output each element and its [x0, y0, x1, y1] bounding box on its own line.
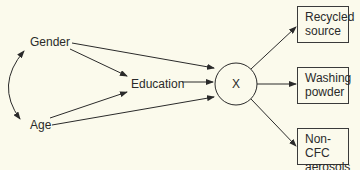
washing-line1: Washing — [305, 71, 348, 85]
edge-x-noncfc — [251, 99, 296, 146]
edge-age-x — [52, 97, 214, 125]
washing-line2: powder — [305, 85, 348, 99]
noncfc-aerosols-box: Non-CFC aerosols — [297, 128, 349, 165]
edge-gender-x — [72, 43, 214, 68]
education-node: Education — [131, 77, 184, 91]
recycled-line2: source — [305, 24, 348, 38]
age-node: Age — [30, 118, 51, 132]
edge-gender-age — [8, 51, 24, 119]
washing-powder-box: Washing powder — [297, 67, 349, 104]
gender-node: Gender — [30, 35, 70, 49]
recycled-line1: Recycled — [305, 10, 348, 24]
x-node-label: X — [232, 77, 240, 91]
recycled-source-box: Recycled source — [297, 6, 349, 43]
noncfc-line2: aerosols — [305, 160, 348, 170]
edge-x-recycled — [251, 27, 296, 69]
edge-gender-education — [70, 49, 127, 76]
noncfc-line1: Non-CFC — [305, 132, 348, 160]
